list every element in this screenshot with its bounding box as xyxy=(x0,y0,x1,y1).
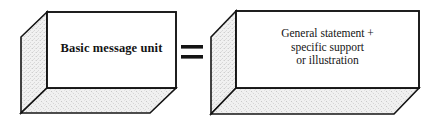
equals-bar-top xyxy=(181,45,203,49)
right-box-bottom-face xyxy=(211,88,419,114)
right-box-front-face xyxy=(236,11,419,88)
left-box-bottom-face xyxy=(21,88,176,113)
equals-bar-bottom xyxy=(181,55,203,59)
diagram-svg xyxy=(0,0,446,119)
diagram-canvas: Basic message unit General statement + s… xyxy=(0,0,446,119)
equals-sign-icon xyxy=(181,45,203,59)
left-box-front-face xyxy=(47,12,176,88)
right-box-group xyxy=(211,11,419,114)
left-box-group xyxy=(21,12,176,113)
